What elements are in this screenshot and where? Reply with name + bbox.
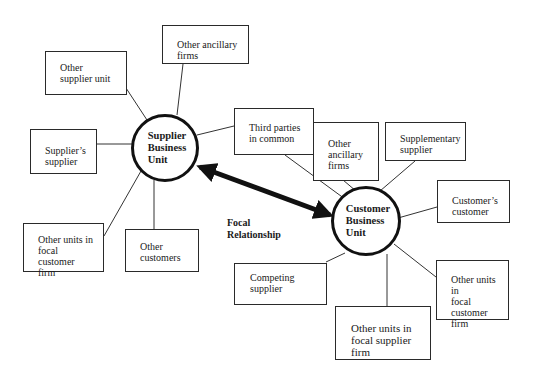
node-other-units-focal-customer-right: Other units in focal customer firm <box>436 260 509 320</box>
link-other-ancillary-supplier <box>177 64 183 115</box>
link-supplementary-supplier <box>380 161 415 191</box>
node-other-ancillary-firms-customer: Other ancillary firms <box>313 122 379 181</box>
link-other-units-left <box>104 171 141 236</box>
node-other-units-focal-customer-left: Other units in focal customer firm <box>23 223 104 272</box>
focal-relationship-label: Focal Relationship <box>227 217 281 241</box>
customer-business-unit-label: Customer Business Unit <box>342 203 390 239</box>
node-competing-supplier: Competing supplier <box>234 263 327 305</box>
link-competing-supplier <box>326 253 345 262</box>
supplier-business-unit-label: Supplier Business Unit <box>144 130 187 166</box>
supplier-business-unit-hub: Supplier Business Unit <box>131 114 199 182</box>
node-supplementary-supplier: Supplementary supplier <box>385 122 466 161</box>
node-other-customers: Other customers <box>125 229 199 272</box>
link-third-parties-supplier <box>197 126 234 135</box>
link-customers-customer <box>398 207 437 218</box>
node-other-units-focal-supplier: Other units in focal supplier firm <box>335 306 431 360</box>
link-other-units-right <box>394 244 436 277</box>
node-other-supplier-unit: Other supplier unit <box>45 51 127 95</box>
node-other-ancillary-firms-supplier: Other ancillary firms <box>162 25 249 64</box>
customer-business-unit-hub: Customer Business Unit <box>331 186 401 256</box>
node-customers-customer: Customer’s customer <box>437 180 510 223</box>
node-third-parties: Third parties in common <box>234 108 314 155</box>
link-other-supplier-unit <box>126 88 147 120</box>
node-suppliers-supplier: Supplier’s supplier <box>30 129 97 174</box>
